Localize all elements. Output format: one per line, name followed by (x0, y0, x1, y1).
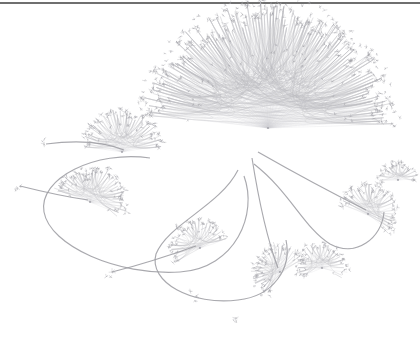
leaf-tick (207, 34, 208, 36)
leaf-tick (187, 121, 188, 122)
trunk-edge-layer (20, 142, 384, 301)
leaf-tick (183, 33, 184, 35)
leaf-tick (384, 80, 385, 81)
leaf-tick (147, 108, 149, 109)
leaf-tick (188, 31, 189, 32)
leaf-tick (270, 5, 271, 7)
leaf-tick (138, 98, 141, 99)
leaf-tick (382, 227, 383, 228)
leaf-tick (181, 33, 183, 34)
leaf-tick (265, 257, 266, 259)
leaf-tick (283, 248, 284, 249)
leaf-tick (61, 180, 62, 182)
leaf-tick (391, 194, 392, 195)
leaf-tick (127, 111, 129, 112)
leaf-tick (123, 213, 125, 214)
leaf-tick (377, 123, 380, 124)
leaf-tick (369, 50, 372, 51)
leaf-tick (125, 112, 126, 115)
leaf-tick (258, 11, 260, 14)
leaf-tick (364, 46, 366, 47)
leaf-tick (356, 52, 357, 55)
leaf-tick (375, 182, 377, 183)
hub-node (199, 247, 201, 249)
leaf-tick (379, 185, 381, 187)
leaf-tick (101, 114, 102, 116)
leaf-tick (308, 32, 309, 34)
leaf-tick (342, 82, 344, 83)
leaf-tick (151, 116, 153, 117)
leaf-tick (208, 17, 209, 20)
leaf-tick (270, 290, 273, 291)
leaf-tick (18, 188, 20, 190)
leaf-tick (314, 248, 315, 249)
leaf-tick (384, 163, 385, 166)
leaf-tick (169, 244, 171, 245)
leaf-tick (141, 124, 143, 126)
leaf-tick (302, 250, 303, 252)
leaf-tick (122, 111, 125, 112)
leaf-tick (189, 31, 190, 34)
leaf-tick (160, 141, 162, 142)
leaf-tick (209, 219, 210, 222)
leaf-tick (156, 134, 157, 135)
leaf-tick (91, 132, 92, 134)
leaf-tick (194, 18, 195, 20)
leaf-tick (164, 53, 165, 54)
leaf-tick (300, 253, 302, 255)
leaf-tick (254, 281, 256, 283)
leaf-tick (184, 42, 185, 44)
hub-node (121, 151, 123, 153)
leaf-tick (339, 202, 341, 203)
leaf-tick (391, 194, 392, 195)
leaf-tick (391, 161, 393, 162)
leaf-tick (355, 57, 357, 58)
leaf-tick (233, 16, 235, 17)
leaf-tick (337, 30, 339, 31)
leaf-tick (149, 89, 152, 90)
leaf-tick (369, 90, 370, 92)
leaf-tick (380, 110, 383, 111)
leaf-tick (379, 107, 381, 108)
leaf-tick (187, 229, 188, 231)
leaf-tick (181, 31, 183, 33)
leaf-tick (186, 55, 188, 58)
leaf-tick (338, 26, 341, 28)
leaf-tick (92, 168, 94, 169)
leaf-tick (352, 189, 353, 191)
leaf-tick (151, 114, 154, 115)
leaf-tick (105, 169, 107, 170)
leaf-tick (265, 9, 267, 10)
leaf-tick (109, 127, 110, 129)
leaf-tick (281, 10, 283, 12)
leaf-tick (271, 4, 272, 6)
leaf-tick (111, 275, 112, 277)
leaf-tick (170, 246, 171, 247)
leaf-tick (208, 19, 209, 21)
leaf-tick (412, 169, 413, 171)
leaf-tick (235, 319, 236, 322)
leaf-tick (99, 168, 101, 169)
leaf-tick (394, 200, 396, 201)
leaf-tick (175, 258, 176, 260)
leaf-tick (303, 254, 304, 255)
leaf-tick (372, 57, 374, 58)
leaf-tick (125, 210, 126, 213)
leaf-tick (126, 203, 127, 205)
leaf-tick (347, 46, 348, 48)
leaf-tick (346, 192, 348, 194)
leaf-tick (145, 104, 146, 107)
hub-node (279, 271, 281, 273)
leaf-tick (86, 138, 87, 139)
leaf-tick (258, 259, 260, 260)
leaf-tick (45, 137, 46, 138)
leaf-tick (390, 85, 391, 87)
leaf-tick (361, 184, 362, 185)
leaf-tick (261, 286, 262, 287)
leaf-tick (106, 117, 107, 118)
leaf-tick (190, 291, 191, 294)
network-graph-figure (0, 0, 420, 338)
leaf-tick (242, 4, 245, 5)
leaf-tick (313, 26, 315, 27)
leaf-tick (221, 235, 224, 236)
